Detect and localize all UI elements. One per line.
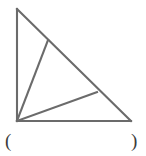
segment-cevian-upper: [17, 40, 48, 121]
triangle-strokes: [17, 9, 131, 121]
answer-row: ( ): [0, 129, 146, 156]
triangle-diagram-svg: [0, 0, 146, 130]
geometry-figure: [0, 0, 146, 130]
answer-open-paren: (: [5, 129, 11, 153]
figure-page: ( ): [0, 0, 146, 156]
answer-close-paren: ): [131, 129, 137, 153]
answer-blank-field[interactable]: [16, 129, 130, 153]
segment-hypotenuse: [17, 9, 131, 121]
segment-cevian-lower: [17, 92, 97, 121]
